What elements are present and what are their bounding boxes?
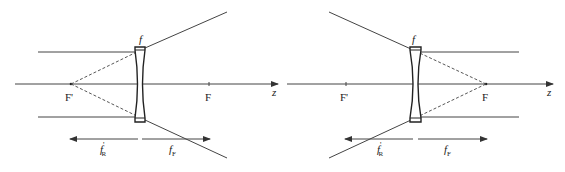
focal-point-back-label: F	[482, 91, 488, 103]
outgoing-ray-upper	[145, 12, 227, 48]
dim-label-left: f'R	[377, 141, 384, 158]
dim-label-right: fF	[169, 143, 176, 158]
lens-diagrams: z F' F f f'R fF z F'	[0, 0, 565, 172]
focal-point-front-label: F'	[340, 91, 348, 103]
incoming-ray-upper	[329, 12, 411, 49]
right-diagram: z F' F f f'R fF	[287, 12, 553, 158]
left-diagram: z F' F f f'R fF	[15, 12, 278, 158]
axis-label-z: z	[546, 86, 552, 98]
virtual-ray-lower	[71, 84, 145, 120]
axis-label-z: z	[271, 86, 277, 98]
dim-label-left: f'R	[100, 141, 107, 158]
virtual-ray-upper	[71, 48, 145, 84]
virtual-ray-upper	[411, 49, 486, 84]
focal-point-front-label: F'	[65, 91, 73, 103]
dim-label-right: fF	[444, 143, 451, 158]
focal-point-back-label: F	[205, 91, 211, 103]
lens-label: f	[139, 33, 144, 45]
lens-label: f	[412, 33, 417, 45]
virtual-ray-lower	[411, 84, 486, 120]
